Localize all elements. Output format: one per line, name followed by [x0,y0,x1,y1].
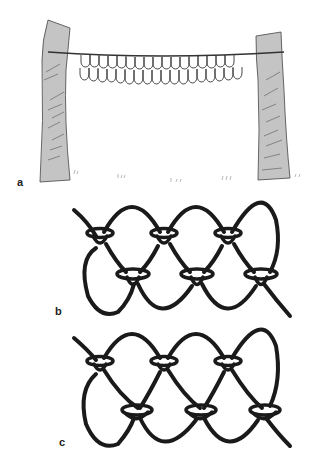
panel-c-knot-diagram [74,330,290,446]
net-illustration [0,0,316,470]
panel-label-b: b [55,305,62,317]
right-tree-icon [256,32,290,180]
cord [48,52,284,56]
panel-label-a: a [17,176,23,188]
panel-a-scene [40,20,300,182]
left-tree-icon [40,20,70,182]
panel-b-knot-diagram [74,203,290,316]
net-top-row [81,55,234,69]
net-bottom-row [80,67,242,84]
panel-label-c: c [59,436,65,448]
